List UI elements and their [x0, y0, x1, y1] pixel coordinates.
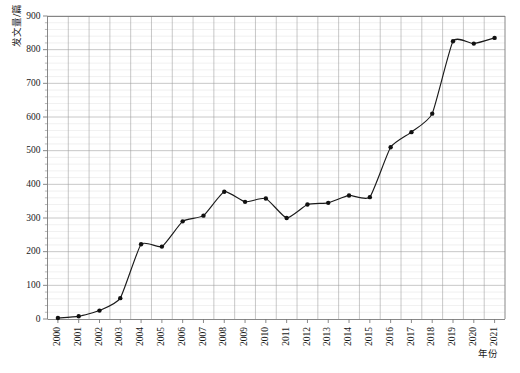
data-point: [409, 130, 413, 134]
data-point: [118, 296, 122, 300]
data-point: [264, 196, 268, 200]
x-tick-label: 2007: [198, 327, 208, 346]
x-tick-label: 2005: [156, 327, 166, 346]
y-tick-label: 700: [26, 78, 41, 88]
x-axis-title: 年份: [478, 348, 498, 359]
data-point: [222, 190, 226, 194]
major-gridlines-vertical: [68, 16, 484, 319]
x-tick-label: 2021: [489, 327, 499, 346]
y-tick-label: 0: [36, 314, 41, 324]
x-tick-label: 2010: [260, 327, 270, 346]
data-point: [201, 213, 205, 217]
x-tick-label: 2009: [239, 327, 249, 346]
data-point: [368, 195, 372, 199]
data-point: [430, 111, 434, 115]
y-tick-label: 800: [26, 44, 41, 54]
data-point: [347, 193, 351, 197]
data-point: [305, 202, 309, 206]
x-tick-label: 2019: [447, 327, 457, 346]
data-point: [56, 316, 60, 320]
data-point: [180, 219, 184, 223]
x-tick-label: 2015: [364, 327, 374, 346]
data-point: [472, 41, 476, 45]
x-tick-label: 2001: [73, 327, 83, 346]
y-tick-label: 500: [26, 145, 41, 155]
data-point: [243, 200, 247, 204]
x-tick-label: 2014: [343, 327, 353, 346]
y-tick-label: 300: [26, 213, 41, 223]
data-point: [492, 36, 496, 40]
line-chart: 0100200300400500600700800900 20002001200…: [0, 0, 520, 373]
y-axis-title: 发文量/篇: [11, 4, 22, 47]
y-tick-label: 900: [26, 11, 41, 21]
data-point: [326, 201, 330, 205]
x-tick-label: 2016: [385, 327, 395, 346]
x-tick-label: 2008: [218, 327, 228, 346]
x-tick-label: 2017: [406, 327, 416, 346]
data-point: [388, 145, 392, 149]
data-point: [97, 308, 101, 312]
x-tick-label: 2004: [135, 327, 145, 346]
chart-container: 0100200300400500600700800900 20002001200…: [0, 0, 520, 373]
x-tick-label: 2000: [52, 327, 62, 346]
y-tick-label: 600: [26, 112, 41, 122]
y-tick-label: 200: [26, 246, 41, 256]
y-tick-label: 100: [26, 280, 41, 290]
x-tick-label: 2018: [426, 327, 436, 346]
x-tick-label: 2012: [302, 327, 312, 346]
x-tick-label: 2013: [322, 327, 332, 346]
x-tick-label: 2020: [468, 327, 478, 346]
x-tick-label: 2002: [94, 327, 104, 346]
data-point: [160, 244, 164, 248]
y-tick-label: 400: [26, 179, 41, 189]
data-point: [284, 216, 288, 220]
data-point: [139, 242, 143, 246]
x-tick-label: 2011: [281, 327, 291, 346]
x-tick-label: 2006: [177, 327, 187, 346]
data-point: [76, 314, 80, 318]
data-point: [451, 39, 455, 43]
x-tick-label: 2003: [114, 327, 124, 346]
